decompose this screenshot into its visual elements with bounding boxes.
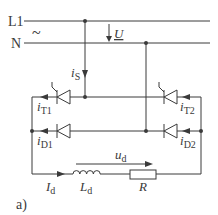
d2-current-label: iD2 <box>180 133 196 150</box>
junction-dot <box>83 95 87 99</box>
t1-current-label: iT1 <box>37 99 52 116</box>
load-current-arrowhead <box>57 171 65 177</box>
circuit-diagram: L1 N ~ U iS iT1 iD1 iT2 iD2 Id ud Ld R a… <box>0 0 218 215</box>
neutral-label: N <box>11 36 21 51</box>
diode-d2 <box>164 124 177 138</box>
source-current-label: iS <box>71 65 80 82</box>
d1-current-label: iD1 <box>37 133 53 150</box>
resistor-label: R <box>138 179 147 194</box>
inductor-label: Ld <box>79 179 92 196</box>
ac-symbol: ~ <box>32 24 41 41</box>
panel-label: a) <box>16 197 27 213</box>
voltage-label: U <box>114 26 125 41</box>
junction-dot <box>144 129 148 133</box>
junction-dot <box>83 19 87 23</box>
voltage-arrowhead <box>106 36 112 42</box>
thyristor-t2 <box>159 82 177 104</box>
junction-dot <box>30 129 34 133</box>
load-current-label: Id <box>45 179 55 196</box>
d1-current-arrowhead <box>40 128 48 134</box>
l1-label: L1 <box>8 14 24 29</box>
thyristor-t1 <box>52 82 70 104</box>
load-voltage-label: ud <box>115 147 127 164</box>
resistor-symbol <box>130 170 156 179</box>
junction-dot <box>199 129 203 133</box>
inductor-symbol <box>73 171 100 174</box>
load-voltage-arrowhead <box>145 161 153 167</box>
junction-dot <box>144 41 148 45</box>
source-current-arrowhead <box>82 70 88 78</box>
diode-d1 <box>57 124 70 138</box>
t2-current-label: iT2 <box>180 99 195 116</box>
t1-current-arrowhead <box>40 94 48 100</box>
